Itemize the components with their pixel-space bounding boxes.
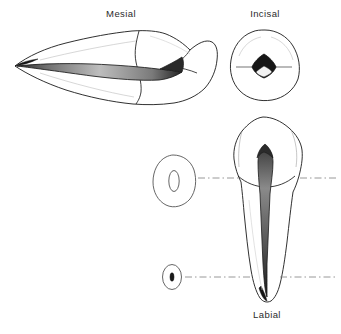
- figure-canvas: [0, 0, 341, 334]
- apical-section-canal: [170, 273, 174, 281]
- view-label-labial: Labial: [230, 309, 304, 320]
- incisal-view: [230, 30, 299, 101]
- mesial-view: [15, 31, 217, 105]
- cross-section-cervical: [153, 155, 196, 207]
- view-label-incisal: Incisal: [228, 8, 302, 19]
- cross-section-apical: [163, 265, 182, 290]
- view-label-mesial: Mesial: [84, 8, 158, 19]
- cervical-section-canal: [169, 171, 179, 192]
- tooth-anatomy-figure: Mesial Incisal Labial: [0, 0, 341, 334]
- labial-view: [234, 117, 302, 302]
